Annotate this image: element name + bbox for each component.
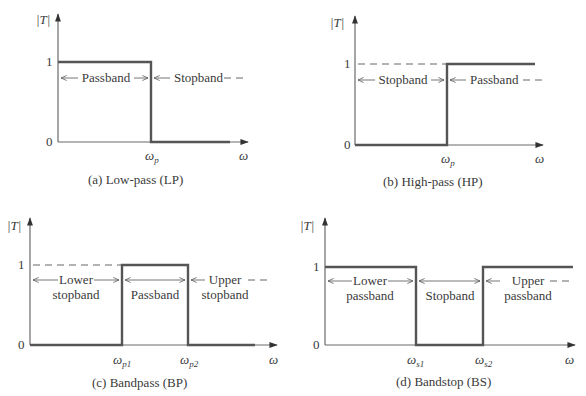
x-tick-wp: ωp [145,148,159,165]
y-axis-label: |T| [7,218,21,233]
band-label-stopband: Stopband [378,72,428,87]
band-label-lower-stopband: Lowerstopband [53,272,100,302]
band-label-upper-passband: Upperpassband [504,273,552,303]
y-axis-label: |T| [300,218,314,233]
y-tick-0: 0 [18,337,25,352]
y-tick-1: 1 [18,257,25,272]
x-axis-label: ω [565,352,574,367]
panel-bandstop: |T| 1 0 Lowerpassband Stopband Upperpass… [300,218,575,389]
band-label-stopband: Stopband [425,288,475,303]
y-axis-label: |T| [330,15,344,30]
caption: (c) Bandpass (BP) [92,375,187,390]
x-tick-ws2: ωs2 [475,352,493,369]
y-axis-label: |T| [36,12,50,27]
y-tick-1: 1 [344,56,351,71]
band-label-passband: Passband [131,287,180,302]
band-label-upper-stopband: Upperstopband [202,272,249,302]
caption: (d) Bandstop (BS) [396,374,491,389]
y-tick-0: 0 [344,137,351,152]
x-tick-ws1: ωs1 [407,352,424,369]
band-label-passband: Passband [470,72,519,87]
panel-bandpass: |T| 1 0 Lowerstopband Passband Upperstop… [7,218,278,390]
y-tick-0: 0 [313,337,320,352]
x-axis-label: ω [269,352,278,367]
x-axis-label: ω [239,148,248,163]
panel-highpass: |T| 1 0 Stopband Passband ωp ω (b) High-… [330,15,546,189]
caption: (a) Low-pass (LP) [88,172,183,187]
y-tick-0: 0 [46,134,53,149]
x-tick-wp: ωp [441,151,455,168]
caption: (b) High-pass (HP) [383,174,483,189]
band-label-stopband: Stopband [174,70,224,85]
y-tick-1: 1 [313,259,320,274]
panel-lowpass: |T| 1 0 Passband Stopband ωp ω (a) Low-p… [36,12,248,187]
y-tick-1: 1 [46,54,53,69]
band-label-passband: Passband [82,70,131,85]
x-tick-wp1: ωp1 [113,352,131,369]
x-axis-label: ω [535,151,544,166]
x-tick-wp2: ωp2 [180,352,199,369]
